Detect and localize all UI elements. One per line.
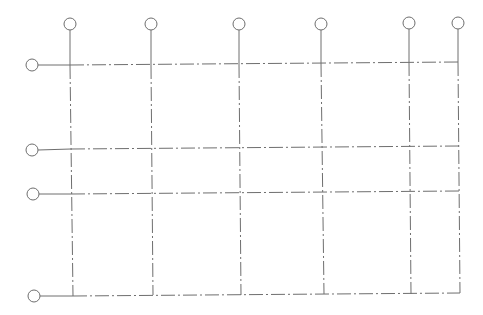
grid-column-4 bbox=[315, 18, 327, 294]
column-grid-line bbox=[70, 65, 73, 296]
grid-column-3 bbox=[233, 18, 245, 295]
grid-column-5 bbox=[403, 17, 415, 294]
grid-column-1 bbox=[64, 18, 76, 296]
row-grid-line bbox=[71, 191, 459, 194]
row-axes bbox=[26, 59, 460, 302]
column-bubble-icon bbox=[233, 18, 245, 30]
column-grid-line bbox=[409, 62, 411, 294]
row-bubble-icon bbox=[26, 144, 38, 156]
row-bubble-icon bbox=[28, 290, 40, 302]
column-bubble-icon bbox=[452, 17, 464, 29]
grid-row-4 bbox=[28, 290, 460, 302]
row-bubble-icon bbox=[26, 59, 38, 71]
row-grid-line bbox=[71, 146, 459, 149]
column-bubble-icon bbox=[145, 18, 157, 30]
grid-column-2 bbox=[145, 18, 157, 295]
grid-row-3 bbox=[27, 188, 459, 200]
column-grid-line bbox=[239, 64, 241, 295]
row-bubble-icon bbox=[27, 188, 39, 200]
grid-row-1 bbox=[26, 59, 458, 71]
grid-diagram bbox=[0, 0, 483, 315]
column-bubble-icon bbox=[64, 18, 76, 30]
grid-column-6 bbox=[452, 17, 464, 293]
column-grid-line bbox=[458, 62, 460, 293]
row-grid-line bbox=[73, 293, 460, 296]
row-leader-line bbox=[38, 149, 71, 150]
column-axes bbox=[64, 17, 464, 296]
column-bubble-icon bbox=[403, 17, 415, 29]
grid-row-2 bbox=[26, 144, 459, 156]
column-bubble-icon bbox=[315, 18, 327, 30]
column-grid-line bbox=[151, 65, 153, 295]
column-grid-line bbox=[321, 63, 324, 294]
row-grid-line bbox=[70, 62, 458, 65]
